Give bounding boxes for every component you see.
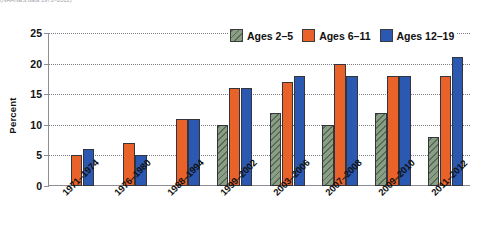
bar bbox=[440, 76, 452, 186]
bar bbox=[241, 88, 253, 186]
bar bbox=[135, 155, 147, 186]
legend-swatch-icon bbox=[230, 29, 243, 42]
legend-swatch-icon bbox=[302, 29, 315, 42]
bar-group bbox=[111, 33, 147, 186]
legend-label: Ages 6–11 bbox=[319, 30, 370, 42]
legend-item[interactable]: Ages 2–5 bbox=[230, 29, 293, 42]
bar bbox=[123, 143, 135, 186]
bar bbox=[375, 113, 387, 186]
bar bbox=[176, 119, 188, 186]
y-axis-tick-label: 0 bbox=[16, 180, 42, 192]
y-axis-tick-label: 10 bbox=[16, 119, 42, 131]
legend-item[interactable]: Ages 6–11 bbox=[302, 29, 370, 42]
y-axis-tick-label: 25 bbox=[16, 27, 42, 39]
bar bbox=[270, 113, 282, 186]
legend-label: Ages 12–19 bbox=[397, 30, 455, 42]
y-axis-tick-mark bbox=[44, 186, 49, 187]
bar-group bbox=[164, 33, 200, 186]
bar bbox=[346, 76, 358, 186]
y-axis-tick-label: 5 bbox=[16, 149, 42, 161]
chart-legend: Ages 2–5Ages 6–11Ages 12–19 bbox=[228, 28, 456, 43]
legend-item[interactable]: Ages 12–19 bbox=[380, 29, 455, 42]
legend-label: Ages 2–5 bbox=[247, 30, 293, 42]
bar-group bbox=[322, 33, 358, 186]
bar bbox=[452, 57, 464, 186]
legend-swatch-icon bbox=[380, 29, 393, 42]
bar-group bbox=[217, 33, 253, 186]
bars-layer bbox=[48, 33, 470, 186]
bar bbox=[322, 125, 334, 186]
bar bbox=[387, 76, 399, 186]
bar-chart-figure: Percent 0510152025 1971–19741976–1980198… bbox=[0, 0, 484, 249]
bar bbox=[399, 76, 411, 186]
bar bbox=[188, 119, 200, 186]
bar-group bbox=[375, 33, 411, 186]
bar bbox=[428, 137, 440, 186]
bar bbox=[83, 149, 95, 186]
bar bbox=[229, 88, 241, 186]
bar bbox=[334, 64, 346, 186]
y-axis-tick-label: 20 bbox=[16, 58, 42, 70]
y-axis-title: Percent bbox=[7, 86, 18, 146]
bar-group bbox=[59, 33, 95, 186]
bar bbox=[294, 76, 306, 186]
bar bbox=[282, 82, 294, 186]
bar-group bbox=[270, 33, 306, 186]
y-axis-tick-label: 15 bbox=[16, 88, 42, 100]
bar bbox=[71, 155, 83, 186]
bar-group bbox=[428, 33, 464, 186]
bar bbox=[217, 125, 229, 186]
